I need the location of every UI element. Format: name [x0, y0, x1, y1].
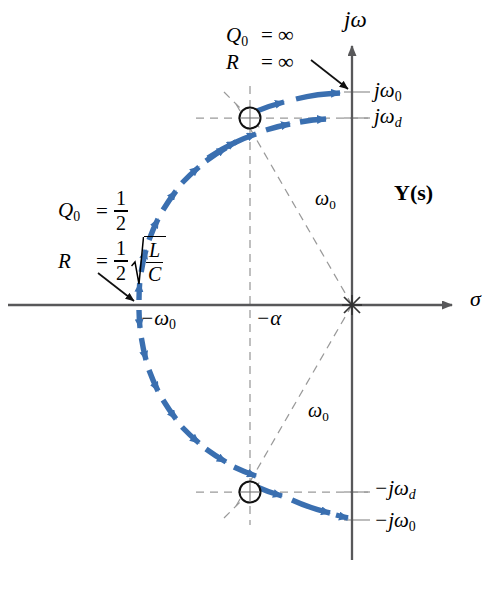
annotation-high-r-symbol: R — [226, 50, 256, 75]
annotation-high-q-symbol: Q0 — [226, 23, 256, 50]
annotation-critical-q-subscript: 0 — [73, 208, 80, 223]
annotation-critical-r-equals: = — [90, 249, 114, 274]
tick-label-jw0-positive-text: jω — [374, 78, 395, 102]
annotation-critical-r-denominator: 2 — [114, 263, 128, 284]
radical-tick — [131, 236, 144, 286]
locus-seg-u8 — [266, 124, 290, 130]
locus-seg-u7 — [234, 134, 256, 143]
annotation-critical-q-numerator: 1 — [114, 188, 128, 209]
real-axis-label: σ — [470, 288, 481, 310]
locus-seg-u5 — [182, 167, 199, 183]
radial-label-omega0-lower-sub: 0 — [322, 409, 329, 424]
tick-label-jwd-positive-text: jω — [374, 104, 395, 128]
annotation-critical-r-fraction: 1 2 — [114, 238, 128, 283]
network-function-label: Y(s) — [394, 182, 433, 204]
annotation-critical-q-denominator: 2 — [114, 213, 128, 234]
locus-seg-l4 — [163, 400, 176, 419]
radial-label-omega0-lower: ω0 — [308, 400, 329, 423]
locus-seg-l6 — [206, 449, 226, 462]
annotation-critical-q-symbol: Q0 — [58, 198, 90, 225]
tick-label-neg-alpha-text: −α — [256, 306, 281, 330]
radical-glyph — [131, 236, 144, 286]
origin-zero-marker — [342, 295, 362, 315]
annotation-critical-q-fraction: 1 2 — [114, 188, 128, 233]
figure-canvas — [0, 0, 502, 595]
pole-marker-upper — [240, 108, 261, 129]
radicand: L C — [144, 236, 166, 286]
annotation-high-r-value: ∞ — [278, 49, 294, 75]
tick-label-jwd-positive-sub: d — [395, 115, 402, 130]
tick-label-neg-omega0-text: −ω — [140, 306, 169, 330]
annotation-high-q-value: ∞ — [278, 22, 294, 48]
tick-label-jw0-positive: jω0 — [374, 80, 402, 104]
annotation-high-r-equals: = — [256, 50, 278, 75]
locus-seg-l10 — [336, 515, 348, 518]
annotation-high-q-row-q: Q0 = ∞ — [226, 22, 294, 49]
tick-label-jwd-negative-text: −jω — [374, 476, 409, 500]
locus-seg-u10 — [208, 142, 236, 158]
pole-marker-lower — [240, 482, 261, 503]
tick-label-neg-omega0: −ω0 — [140, 308, 176, 332]
annotation-critical-r-row: R = 1 2 L C — [58, 236, 166, 286]
radicand-numerator: L — [147, 240, 162, 261]
radial-label-omega0-upper: ω0 — [315, 188, 336, 211]
square-root-symbol: L C — [131, 236, 166, 286]
tick-label-jw0-negative: −jω0 — [374, 510, 416, 534]
tick-label-jwd-positive: jωd — [374, 106, 402, 130]
pointer-r-infinite — [311, 60, 348, 89]
radicand-fraction: L C — [146, 240, 163, 285]
tick-label-jwd-negative: −jωd — [374, 478, 416, 502]
radial-label-omega0-upper-sub: 0 — [329, 197, 336, 212]
locus-seg-l5 — [182, 427, 199, 443]
annotation-critical-r-numerator: 1 — [114, 238, 128, 259]
tick-label-neg-alpha: −α — [256, 308, 281, 329]
root-locus-figure: jω σ jω0 jωd −jωd −jω0 −ω0 −α ω0 ω0 Y(s)… — [0, 0, 502, 595]
locus-seg-u12 — [296, 93, 340, 99]
radial-label-omega0-upper-text: ω — [315, 187, 329, 209]
tick-label-jwd-negative-sub: d — [409, 487, 416, 502]
locus-seg-u9 — [300, 119, 326, 122]
locus-seg-l7 — [234, 467, 256, 476]
annotation-critical-q: Q0 = 1 2 R = 1 2 — [58, 186, 166, 286]
tick-label-jw0-negative-sub: 0 — [409, 519, 416, 534]
locus-seg-l2 — [141, 338, 146, 360]
annotation-high-q-equals: = — [256, 23, 278, 48]
tick-label-jw0-negative-text: −jω — [374, 508, 409, 532]
annotation-critical-r-symbol: R — [58, 249, 90, 274]
locus-upper — [139, 93, 340, 300]
locus-seg-l3 — [149, 370, 158, 391]
annotation-high-q: Q0 = ∞ R = ∞ — [226, 22, 294, 76]
radial-label-omega0-lower-text: ω — [308, 399, 322, 421]
annotation-high-q-subscript: 0 — [241, 34, 248, 49]
annotation-critical-q-equals: = — [90, 199, 114, 224]
imaginary-axis-label: jω — [344, 8, 367, 31]
annotation-high-q-row-r: R = ∞ — [226, 49, 294, 76]
annotation-critical-q-row-q: Q0 = 1 2 — [58, 186, 166, 236]
locus-seg-l9 — [292, 500, 330, 513]
tick-label-neg-omega0-sub: 0 — [169, 317, 176, 332]
radicand-denominator: C — [146, 264, 163, 285]
tick-label-jw0-positive-sub: 0 — [395, 89, 402, 104]
